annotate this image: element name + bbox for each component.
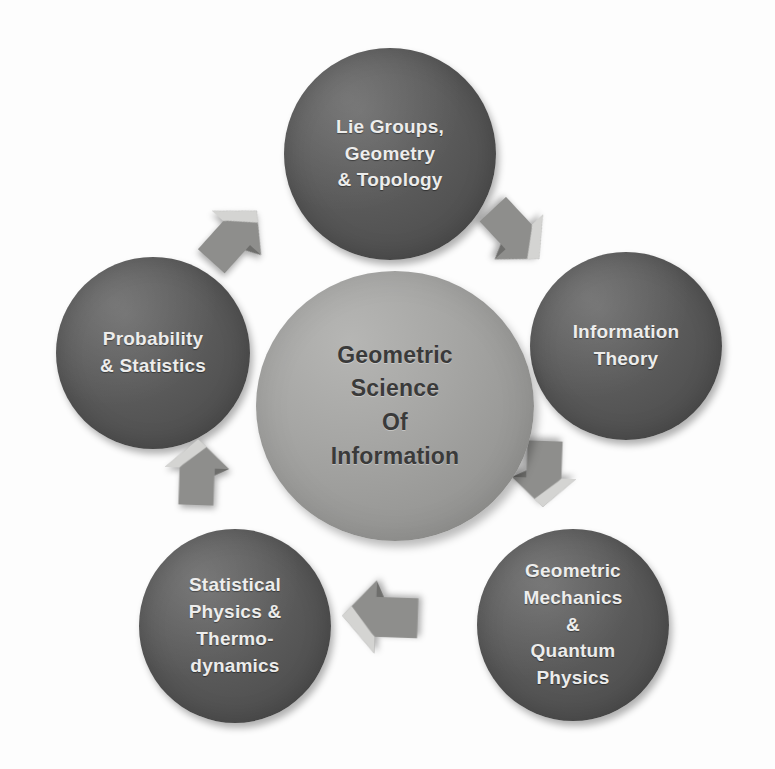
node-geometric-mechanics-quantum-physics[interactable]: Geometric Mechanics & Quantum Physics xyxy=(477,529,669,721)
node-label: Probability & Statistics xyxy=(92,326,214,380)
arrow-statistical-physics-to-probability-icon xyxy=(162,435,232,509)
node-statistical-physics-thermodynamics[interactable]: Statistical Physics & Thermo- dynamics xyxy=(139,529,331,723)
cycle-diagram: Lie Groups, Geometry & Topology Informat… xyxy=(0,0,775,769)
node-label: Lie Groups, Geometry & Topology xyxy=(328,114,452,195)
node-probability-statistics[interactable]: Probability & Statistics xyxy=(56,257,250,449)
node-lie-groups-geometry-topology[interactable]: Lie Groups, Geometry & Topology xyxy=(284,48,496,260)
node-geometric-science-of-information[interactable]: Geometric Science Of Information xyxy=(256,271,534,541)
node-information-theory[interactable]: Information Theory xyxy=(530,252,722,440)
node-label: Information Theory xyxy=(565,319,688,373)
node-label: Statistical Physics & Thermo- dynamics xyxy=(181,572,290,680)
arrow-geometric-mechanics-to-statistical-physics-icon xyxy=(338,577,423,658)
node-label: Geometric Mechanics & Quantum Physics xyxy=(516,558,631,693)
center-label: Geometric Science Of Information xyxy=(323,339,468,473)
